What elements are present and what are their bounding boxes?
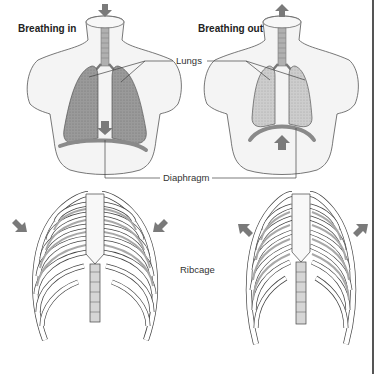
breathing-out-title: Breathing out [198, 23, 263, 34]
breathing-diagram: Breathing in Breathing out Lungs Diaphra… [0, 0, 380, 374]
page-edge-rule [372, 0, 374, 374]
ribcage-inhale [12, 194, 168, 340]
ribcage-label: Ribcage [180, 264, 215, 275]
ribcage-exhale [238, 194, 368, 344]
diaphragm-label: Diaphragm [163, 172, 209, 183]
lungs-label: Lungs [176, 55, 202, 66]
breathing-in-title: Breathing in [18, 23, 76, 34]
